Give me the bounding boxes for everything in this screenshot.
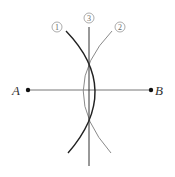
step-label-2: 2 bbox=[115, 22, 125, 32]
point-b-label: B bbox=[155, 83, 163, 98]
svg-text:2: 2 bbox=[118, 23, 122, 32]
construction-diagram: A B 1 3 2 bbox=[0, 0, 175, 177]
point-a-label: A bbox=[11, 83, 20, 98]
svg-text:3: 3 bbox=[87, 14, 91, 23]
svg-text:1: 1 bbox=[55, 23, 59, 32]
step-label-1: 1 bbox=[52, 22, 62, 32]
arc-1 bbox=[66, 31, 95, 153]
step-label-3: 3 bbox=[84, 13, 94, 23]
arc-2 bbox=[83, 31, 112, 153]
point-b-dot bbox=[149, 88, 153, 92]
point-a-dot bbox=[26, 88, 30, 92]
